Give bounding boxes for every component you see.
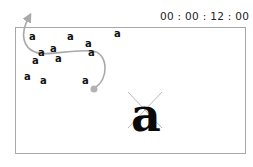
small-glyph[interactable]: a bbox=[88, 47, 95, 58]
small-glyph[interactable]: a bbox=[82, 75, 89, 86]
large-glyph: a bbox=[131, 88, 161, 142]
small-glyph[interactable]: a bbox=[29, 31, 36, 42]
small-glyph[interactable]: a bbox=[24, 71, 31, 82]
small-glyph[interactable]: a bbox=[32, 55, 39, 66]
small-glyph[interactable]: a bbox=[114, 28, 121, 39]
small-glyph[interactable]: a bbox=[55, 53, 62, 64]
small-glyph[interactable]: a bbox=[40, 75, 47, 86]
small-glyph[interactable]: a bbox=[67, 31, 74, 42]
small-glyph[interactable]: a bbox=[38, 47, 45, 58]
large-glyph-group[interactable]: a bbox=[128, 88, 162, 142]
scene-overlay: aaaaaaaaaaaa a bbox=[0, 0, 253, 167]
small-glyph-group: aaaaaaaaaaaa bbox=[24, 28, 121, 86]
path-start-dot[interactable] bbox=[91, 86, 98, 93]
